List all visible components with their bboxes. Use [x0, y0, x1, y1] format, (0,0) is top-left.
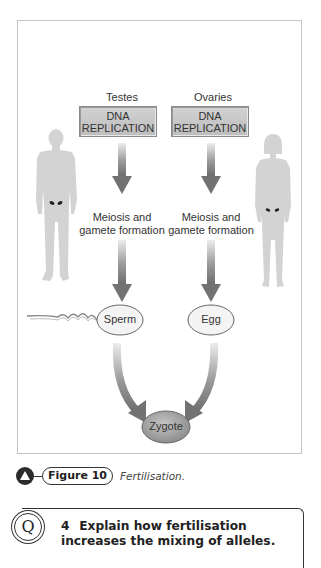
figure-number: Figure 10: [42, 467, 113, 485]
ovaries-label: Ovaries: [183, 91, 243, 103]
question-badge-icon: Q: [14, 513, 42, 541]
meiosis-label-male: Meiosis and gamete formation: [72, 211, 172, 236]
testes-label: Testes: [92, 91, 152, 103]
arrow-down-icon: [201, 143, 221, 194]
meiosis-line1: Meiosis and: [72, 211, 172, 224]
question-number: 4: [61, 519, 75, 534]
male-silhouette-icon: [36, 129, 77, 281]
curved-arrow-icon: [117, 343, 146, 423]
meiosis-line2: gamete formation: [161, 224, 261, 237]
question-text: Explain how fertilisation increases the …: [61, 519, 275, 548]
curved-arrow-icon: [185, 343, 214, 423]
egg-label: Egg: [189, 313, 233, 325]
dna-replication-line2: REPLICATION: [80, 122, 156, 134]
meiosis-line1: Meiosis and: [161, 211, 261, 224]
question-text-block: 4 Explain how fertilisation increases th…: [61, 519, 301, 549]
arrow-down-icon: [201, 240, 221, 302]
dna-replication-line2: REPLICATION: [172, 122, 248, 134]
dna-replication-box-female: DNA REPLICATION: [171, 106, 249, 137]
meiosis-label-female: Meiosis and gamete formation: [161, 211, 261, 236]
figure-title: Fertilisation.: [120, 470, 185, 482]
dna-replication-box-male: DNA REPLICATION: [79, 106, 157, 137]
caption-connector: [34, 476, 42, 477]
dna-replication-line1: DNA: [80, 110, 156, 122]
meiosis-line2: gamete formation: [72, 224, 172, 237]
dna-replication-line1: DNA: [172, 110, 248, 122]
arrow-down-icon: [112, 240, 132, 302]
triangle-icon: [16, 467, 34, 485]
figure-caption: Figure 10 Fertilisation.: [16, 466, 185, 486]
zygote-label: Zygote: [140, 420, 192, 432]
arrow-down-icon: [112, 143, 132, 194]
sperm-label: Sperm: [98, 313, 142, 325]
